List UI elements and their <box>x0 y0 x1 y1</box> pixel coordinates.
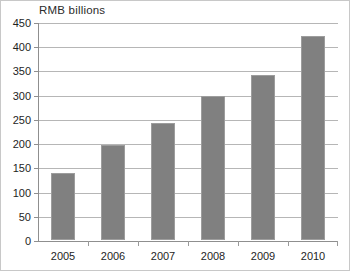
bar <box>251 75 275 240</box>
y-tick-label: 350 <box>13 65 31 77</box>
y-tick-label: 400 <box>13 41 31 53</box>
bar <box>301 36 325 240</box>
bar <box>51 173 75 240</box>
gridline <box>38 47 338 48</box>
y-tick-label: 50 <box>19 211 31 223</box>
bar <box>101 145 125 240</box>
x-tick-label: 2005 <box>51 250 75 262</box>
plot-area: 050100150200250300350400450 200520062007… <box>38 23 338 241</box>
x-tick-label: 2008 <box>201 250 225 262</box>
bar-chart-figure: RMB billions 050100150200250300350400450… <box>0 0 350 271</box>
x-tick-mark <box>288 241 289 246</box>
y-tick-label: 100 <box>13 187 31 199</box>
y-tick-label: 300 <box>13 90 31 102</box>
gridline <box>38 168 338 169</box>
y-tick-label: 0 <box>25 235 31 247</box>
y-axis-line <box>38 23 39 242</box>
gridline <box>38 120 338 121</box>
y-tick-label: 450 <box>13 17 31 29</box>
bar <box>151 123 175 240</box>
gridline <box>38 193 338 194</box>
y-tick-label: 150 <box>13 162 31 174</box>
chart-title: RMB billions <box>39 4 105 16</box>
bar <box>201 96 225 240</box>
x-tick-mark <box>238 241 239 246</box>
gridline <box>38 96 338 97</box>
gridline <box>38 217 338 218</box>
x-tick-mark <box>337 241 338 246</box>
y-tick-label: 200 <box>13 138 31 150</box>
gridline <box>38 23 338 24</box>
x-tick-label: 2009 <box>251 250 275 262</box>
x-tick-label: 2010 <box>301 250 325 262</box>
x-tick-mark <box>188 241 189 246</box>
x-tick-label: 2006 <box>101 250 125 262</box>
x-tick-mark <box>138 241 139 246</box>
x-tick-mark <box>88 241 89 246</box>
x-tick-label: 2007 <box>151 250 175 262</box>
y-tick-label: 250 <box>13 114 31 126</box>
gridline <box>38 144 338 145</box>
gridline <box>38 71 338 72</box>
